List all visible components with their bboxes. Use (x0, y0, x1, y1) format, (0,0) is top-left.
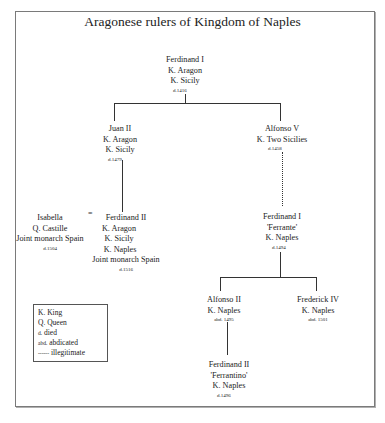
connector-line (185, 94, 186, 103)
node-ferdinand-ii-aragon: Ferdinand II K. Aragon K. Sicily K. Napl… (92, 213, 159, 273)
legend-meaning: illegitimate (51, 348, 85, 357)
node-title: Joint monarch Spain (16, 234, 83, 245)
connector-line (220, 277, 221, 291)
connector-line (316, 277, 317, 291)
node-name: Alfonso V (257, 124, 307, 135)
node-title: K. Naples (207, 306, 241, 317)
node-ferdinand-ii-ferrantino: Ferdinand II 'Ferrantino' K. Naples d.14… (209, 360, 250, 399)
legend-abbr: Q. (38, 318, 45, 327)
node-note: d.1416 (156, 87, 204, 94)
legend-box: K. King Q. Queen d. died abd. abdicated … (33, 304, 108, 362)
node-title: K. Naples (209, 381, 250, 392)
node-ferdinand-i-aragon: Ferdinand I K. Aragon K. Sicily d.1416 (166, 55, 204, 94)
node-title: Joint monarch Spain (92, 255, 159, 266)
connector-line (114, 103, 280, 104)
legend-meaning: died (44, 328, 57, 337)
connector-line (280, 252, 281, 277)
node-name: Isabella (16, 213, 83, 224)
node-title: 'Ferrante' (263, 223, 301, 234)
legend-meaning: Queen (47, 318, 67, 327)
node-title: K. Aragon (78, 224, 159, 235)
node-name: Ferdinand II (92, 213, 159, 224)
legend-item: abd. abdicated (38, 338, 103, 348)
legend-item: ------ illegitimate (38, 348, 103, 358)
illegitimate-connector-line (282, 152, 283, 206)
node-name: Ferdinand I (263, 212, 301, 223)
node-title: K. Sicily (103, 145, 137, 156)
node-note: d.1496 (199, 392, 250, 399)
node-title: K. Naples (80, 245, 159, 256)
legend-meaning: abdicated (49, 338, 78, 347)
node-note: d.1458 (243, 145, 307, 152)
node-name: Juan II (103, 124, 137, 135)
legend-abbr: abd. (38, 340, 47, 346)
connector-line (280, 103, 281, 121)
legend-abbr: K. (38, 308, 45, 317)
node-note: d.1504 (16, 245, 83, 252)
legend-abbr: d. (38, 330, 42, 336)
node-title: K. Naples (297, 306, 339, 317)
legend-meaning: King (47, 308, 62, 317)
legend-item: d. died (38, 328, 103, 338)
connector-line (227, 322, 228, 355)
connector-line (122, 160, 123, 212)
node-ferdinand-i-ferrante: Ferdinand I 'Ferrante' K. Naples d.1494 (263, 212, 301, 251)
node-isabella: Isabella Q. Castille Joint monarch Spain… (16, 213, 83, 252)
connector-line (220, 277, 316, 278)
diagram-title: Aragonese rulers of Kingdom of Naples (0, 14, 385, 30)
node-title: K. Naples (263, 233, 301, 244)
legend-item: Q. Queen (38, 318, 103, 328)
node-title: K. Aragon (166, 66, 204, 77)
node-name: Ferdinand I (166, 55, 204, 66)
node-frederick-iv: Frederick IV K. Naples abd. 1501 (297, 295, 339, 323)
legend-item: K. King (38, 308, 103, 318)
node-alfonso-ii: Alfonso II K. Naples abd. 1495 (207, 295, 241, 323)
node-title: K. Aragon (103, 135, 137, 146)
node-note: abd. 1501 (297, 316, 339, 323)
node-juan-ii: Juan II K. Aragon K. Sicily d.1479 (103, 124, 137, 163)
connector-line (114, 103, 115, 121)
node-alfonso-v: Alfonso V K. Two Sicilies d.1458 (257, 124, 307, 152)
node-note: abd. 1495 (207, 316, 241, 323)
node-title: K. Sicily (166, 76, 204, 87)
node-title: K. Sicily (78, 234, 159, 245)
node-name: Alfonso II (207, 295, 241, 306)
node-note: d.1516 (92, 266, 159, 273)
legend-abbr: ------ (38, 350, 49, 356)
node-name: Ferdinand II (209, 360, 250, 371)
node-note: d.1479 (93, 156, 137, 163)
node-title: 'Ferrantino' (209, 371, 250, 382)
node-note: d.1494 (257, 244, 301, 251)
node-title: Q. Castille (16, 224, 83, 235)
node-title: K. Two Sicilies (257, 135, 307, 146)
node-name: Frederick IV (297, 295, 339, 306)
